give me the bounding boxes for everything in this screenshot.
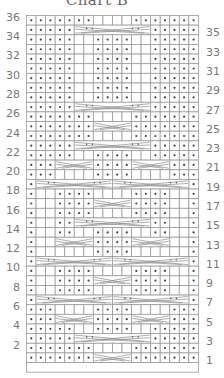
purl-dot-icon <box>193 347 195 349</box>
purl-dot-icon <box>193 308 195 310</box>
cable-purl-dot-icon <box>92 143 93 144</box>
purl-dot-icon <box>40 67 42 69</box>
purl-dot-icon <box>78 116 80 118</box>
purl-dot-icon <box>59 154 61 156</box>
cable-purl-dot-icon <box>86 143 87 144</box>
knit-cell <box>179 276 189 286</box>
purl-dot-icon <box>49 164 51 166</box>
purl-dot-icon <box>30 67 32 69</box>
knit-cell <box>84 150 94 160</box>
purl-dot-icon <box>40 164 42 166</box>
purl-dot-icon <box>154 87 156 89</box>
purl-dot-icon <box>107 308 109 310</box>
purl-dot-icon <box>97 164 99 166</box>
purl-dot-icon <box>97 308 99 310</box>
purl-dot-icon <box>126 77 128 79</box>
purl-dot-icon <box>126 241 128 243</box>
purl-dot-icon <box>78 125 80 127</box>
knit-cell <box>74 324 84 334</box>
purl-dot-icon <box>126 96 128 98</box>
purl-dot-icon <box>30 96 32 98</box>
row-number-label: 15 <box>206 220 220 231</box>
purl-dot-icon <box>40 29 42 31</box>
purl-dot-icon <box>40 308 42 310</box>
purl-dot-icon <box>145 270 147 272</box>
knit-cell <box>93 266 103 276</box>
knit-cell <box>141 324 151 334</box>
purl-dot-icon <box>154 125 156 127</box>
purl-dot-icon <box>78 212 80 214</box>
knit-cell <box>74 305 84 315</box>
purl-dot-icon <box>49 29 51 31</box>
purl-dot-icon <box>116 318 118 320</box>
cable-purl-dot-icon <box>53 259 54 260</box>
purl-dot-icon <box>49 135 51 137</box>
purl-dot-icon <box>107 77 109 79</box>
purl-dot-icon <box>78 193 80 195</box>
purl-dot-icon <box>193 193 195 195</box>
purl-dot-icon <box>154 135 156 137</box>
purl-dot-icon <box>135 116 137 118</box>
cable-purl-dot-icon <box>170 259 171 260</box>
cable-purl-dot-icon <box>99 182 100 183</box>
cable-purl-dot-icon <box>92 105 93 106</box>
row-number-label: 11 <box>206 259 220 270</box>
chart-svg <box>26 15 199 373</box>
purl-dot-icon <box>154 222 156 224</box>
purl-dot-icon <box>68 231 70 233</box>
purl-dot-icon <box>164 96 166 98</box>
purl-dot-icon <box>183 135 185 137</box>
knit-cell <box>84 247 94 257</box>
cable-purl-dot-icon <box>86 221 87 222</box>
knit-cell <box>132 170 142 180</box>
purl-dot-icon <box>97 96 99 98</box>
purl-dot-icon <box>135 202 137 204</box>
purl-dot-icon <box>126 48 128 50</box>
knit-cell <box>132 305 142 315</box>
purl-dot-icon <box>49 48 51 50</box>
purl-dot-icon <box>135 125 137 127</box>
knit-cell <box>132 150 142 160</box>
knit-cell <box>65 305 75 315</box>
purl-dot-icon <box>68 116 70 118</box>
purl-dot-icon <box>78 270 80 272</box>
purl-dot-icon <box>59 347 61 349</box>
purl-dot-icon <box>68 328 70 330</box>
row-number-label: 19 <box>206 182 220 193</box>
purl-dot-icon <box>145 19 147 21</box>
purl-dot-icon <box>173 347 175 349</box>
purl-dot-icon <box>49 145 51 147</box>
purl-dot-icon <box>59 87 61 89</box>
row-number-label: 4 <box>13 320 20 331</box>
row-number-label: 23 <box>206 143 220 154</box>
purl-dot-icon <box>154 29 156 31</box>
knit-cell <box>84 73 94 83</box>
purl-dot-icon <box>126 58 128 60</box>
purl-dot-icon <box>107 173 109 175</box>
knit-cell <box>141 247 151 257</box>
purl-dot-icon <box>116 164 118 166</box>
purl-dot-icon <box>40 154 42 156</box>
knit-cell <box>170 208 180 218</box>
knit-cell <box>74 35 84 45</box>
purl-dot-icon <box>173 125 175 127</box>
purl-dot-icon <box>193 164 195 166</box>
knit-cell <box>132 324 142 334</box>
knit-cell <box>84 35 94 45</box>
purl-dot-icon <box>30 145 32 147</box>
knitting-chart-grid <box>26 15 199 373</box>
knit-cell <box>36 237 46 247</box>
knit-cell <box>112 266 122 276</box>
purl-dot-icon <box>30 318 32 320</box>
purl-dot-icon <box>183 106 185 108</box>
row-number-label: 5 <box>206 317 213 328</box>
knit-cell <box>93 16 103 26</box>
purl-dot-icon <box>173 77 175 79</box>
knit-cell <box>84 44 94 54</box>
knit-cell <box>93 343 103 353</box>
purl-dot-icon <box>193 241 195 243</box>
row-number-label: 1 <box>206 355 213 366</box>
purl-dot-icon <box>183 357 185 359</box>
purl-dot-icon <box>183 39 185 41</box>
knit-cell <box>74 73 84 83</box>
